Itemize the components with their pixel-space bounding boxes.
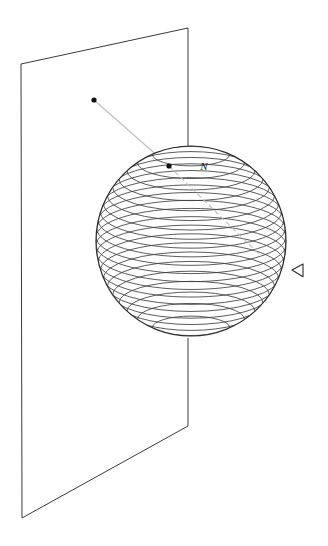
sphere-point bbox=[166, 163, 171, 168]
axis-arrowhead bbox=[292, 264, 303, 277]
plane-bottom-edge bbox=[22, 426, 188, 518]
north-pole-label: N bbox=[199, 160, 208, 172]
plane-point bbox=[91, 97, 96, 102]
plane-top-edge bbox=[21, 28, 188, 64]
diagram-canvas: N bbox=[0, 0, 328, 546]
sphere bbox=[96, 143, 286, 340]
figure-root: N bbox=[0, 0, 328, 546]
plane-left-edge bbox=[21, 64, 22, 518]
